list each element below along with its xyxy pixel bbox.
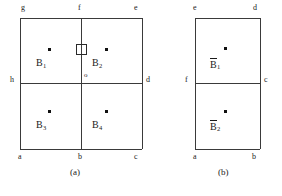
figure-b-vertex-label-b: b xyxy=(252,153,256,161)
region-label-subscript: 3 xyxy=(43,124,46,131)
region-label-base: B xyxy=(36,119,43,130)
diagram-canvas: gfehdabcoB1B2B3B4(a)edfcabB1B2(b) xyxy=(0,0,282,196)
figure-outline-layer xyxy=(0,0,282,196)
figure-b-vertex-label-e: e xyxy=(193,4,197,12)
region-label-base: B xyxy=(36,57,43,68)
figure-a-vertex-label-d: d xyxy=(146,76,150,84)
figure-a-vertex-label-b: b xyxy=(78,153,82,161)
figure-b-region-label-Bbar1: B1 xyxy=(210,58,220,71)
figure-a-vertex-label-f: f xyxy=(78,4,81,12)
figure-a-square-marker xyxy=(76,44,87,55)
figure-a-vertex-label-g: g xyxy=(21,4,25,12)
figure-b-center-dot-Bbar2 xyxy=(224,110,227,113)
region-label-base: B xyxy=(92,119,99,130)
region-label-base: B xyxy=(210,58,217,70)
region-label-subscript: 1 xyxy=(43,62,46,69)
figure-a-center-dot-B1 xyxy=(48,48,51,51)
figure-b-caption: (b) xyxy=(218,168,229,177)
figure-a-region-label-B3: B3 xyxy=(36,120,46,131)
figure-a-caption: (a) xyxy=(70,168,80,177)
figure-a-center-dot-B2 xyxy=(105,48,108,51)
region-label-base: B xyxy=(92,57,99,68)
figure-a-region-label-B2: B2 xyxy=(92,58,102,69)
figure-a-vertex-label-c: c xyxy=(134,153,138,161)
region-label-base: B xyxy=(210,120,217,132)
figure-b-center-dot-Bbar1 xyxy=(224,47,227,50)
figure-b-vertex-label-d: d xyxy=(253,4,257,12)
figure-b-vertex-label-f: f xyxy=(185,76,188,84)
figure-a-vertex-label-h: h xyxy=(10,76,14,84)
figure-a-origin-label: o xyxy=(84,72,88,79)
figure-a-vertex-label-e: e xyxy=(134,4,138,12)
region-label-subscript: 2 xyxy=(99,62,102,69)
figure-b-region-label-Bbar2: B2 xyxy=(210,120,220,133)
figure-a-vertex-label-a: a xyxy=(18,153,22,161)
figure-a-region-label-B1: B1 xyxy=(36,58,46,69)
figure-b-vertex-label-c: c xyxy=(264,76,268,84)
figure-a-center-dot-B4 xyxy=(105,110,108,113)
region-label-subscript: 2 xyxy=(217,125,220,132)
region-label-subscript: 4 xyxy=(99,124,102,131)
figure-a-center-dot-B3 xyxy=(48,110,51,113)
figure-b-vertex-label-a: a xyxy=(193,153,197,161)
figure-a-region-label-B4: B4 xyxy=(92,120,102,131)
region-label-subscript: 1 xyxy=(217,63,220,70)
